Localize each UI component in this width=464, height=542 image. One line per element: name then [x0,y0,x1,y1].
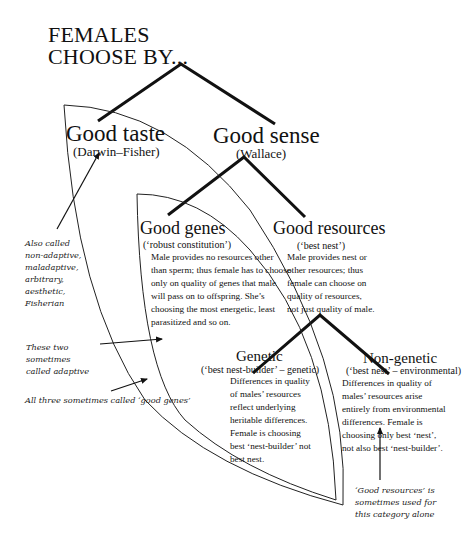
arrow-also-called [57,153,99,229]
node-good-sense-label: Good sense [213,124,320,148]
annotation-all-three: All three sometimes called ‘good genes’ [25,394,225,406]
annotation-these-two: These two sometimes called adaptive [26,341,96,377]
node-good-genes-desc: Male provides no resources other than sp… [151,251,291,329]
node-non-genetic-sub: (‘best nest’ – environmental) [346,365,461,377]
annotation-good-resources-note: ‘Good resources’ is sometimes used for t… [355,484,445,520]
arrow-all-three [111,379,147,391]
node-good-sense-sub: (Wallace) [236,147,286,161]
node-good-taste-sub: (Darwin–Fisher) [73,145,160,159]
diagram-title: FEMALES CHOOSE BY... [48,24,188,68]
node-non-genetic-desc: Differences in quality of males’ resourc… [342,377,450,455]
title-line-2: CHOOSE BY... [48,46,188,68]
node-good-genes-label: Good genes [140,218,225,238]
annotation-also-called: Also called non-adaptive, maladaptive, a… [25,237,85,309]
node-good-resources-label: Good resources [273,218,385,238]
arrow-these-two [100,339,162,344]
node-non-genetic-label: Non-genetic [363,350,437,366]
node-genetic-desc: Differences in quality of males’ resourc… [230,375,314,466]
title-line-1: FEMALES [48,24,188,46]
node-genetic-label: Genetic [236,348,283,364]
node-good-genes-sub: (‘robust constitution’) [143,239,231,251]
node-good-taste-label: Good taste [66,122,165,146]
node-good-resources-desc: Male provides nest or other resources; t… [287,251,375,316]
